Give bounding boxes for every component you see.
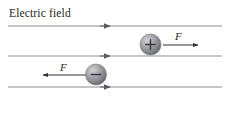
force-label-positive: F bbox=[175, 30, 182, 42]
negative-charge-sphere bbox=[86, 64, 107, 85]
electric-field-caption: Electric field bbox=[9, 8, 71, 20]
force-label-negative: F bbox=[60, 61, 67, 73]
electric-field-figure: Electric field F F bbox=[0, 0, 227, 117]
field-lines-group bbox=[8, 26, 222, 87]
positive-charge-sphere bbox=[140, 34, 161, 55]
